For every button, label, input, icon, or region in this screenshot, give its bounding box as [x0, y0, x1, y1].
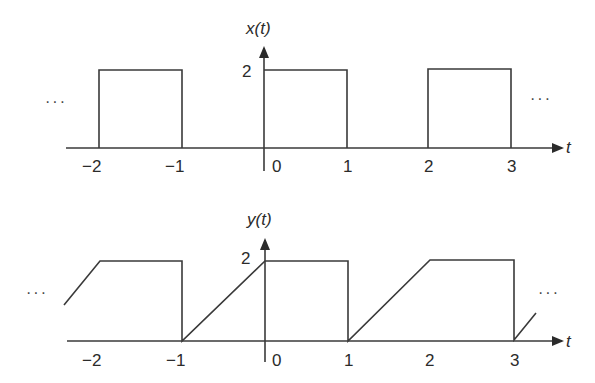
- signal-diagram: x(t) 2 t −2 −1 0 1 2 3 ··· ··· y(t) 2 t …: [0, 0, 595, 383]
- y-axis-label: y(t): [246, 210, 272, 229]
- tick-label: −2: [82, 351, 101, 370]
- tick-label: 2: [424, 157, 433, 176]
- tick-label: 1: [343, 157, 352, 176]
- pulse-signal-x: [99, 70, 182, 148]
- tick-label: 0: [272, 157, 281, 176]
- tick-label: 1: [344, 351, 353, 370]
- tick-label: −1: [166, 351, 185, 370]
- y-tick-label: 2: [242, 62, 251, 81]
- tick-label: −2: [82, 157, 101, 176]
- pulse-signal-x: [264, 70, 347, 148]
- ellipsis-right: ···: [530, 90, 552, 107]
- tick-label: 2: [425, 351, 434, 370]
- t-axis-label: t: [566, 138, 572, 157]
- tick-label: −1: [165, 157, 184, 176]
- plot-x: x(t) 2 t −2 −1 0 1 2 3 ··· ···: [45, 19, 572, 176]
- plot-y: y(t) 2 t −2 −1 0 1 2 3 ··· ···: [26, 210, 572, 370]
- tick-label: 3: [507, 157, 516, 176]
- y-tick-label: 2: [241, 249, 250, 268]
- y-axis-label: x(t): [245, 19, 271, 38]
- ramp-signal-y: [64, 260, 536, 341]
- tick-label: 3: [510, 351, 519, 370]
- ellipsis-left: ···: [26, 284, 48, 301]
- ellipsis-right: ···: [538, 284, 560, 301]
- tick-label: 0: [272, 351, 281, 370]
- t-axis-label: t: [566, 332, 572, 351]
- pulse-signal-x: [428, 69, 511, 148]
- ellipsis-left: ···: [45, 93, 67, 110]
